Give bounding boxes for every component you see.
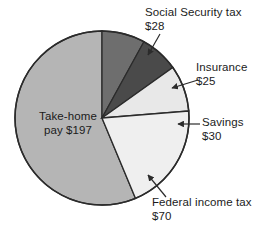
slice-label-insurance-name: Insurance — [196, 61, 247, 75]
slice-label-social-security-tax-value: $28 — [145, 20, 242, 34]
slice-label-federal-income-tax-name: Federal income tax — [152, 196, 252, 210]
pie-chart-figure: Take-home pay $197 Social Security tax $… — [0, 0, 276, 237]
slice-label-savings-value: $30 — [202, 130, 244, 144]
slice-label-federal-income-tax: Federal income tax $70 — [152, 196, 252, 223]
slice-label-insurance: Insurance $25 — [196, 61, 247, 88]
slice-label-take-home-pay-value: pay $197 — [22, 124, 114, 138]
slice-label-savings-name: Savings — [202, 116, 244, 130]
slice-label-take-home-pay: Take-home pay $197 — [22, 110, 114, 137]
slice-label-social-security-tax-name: Social Security tax — [145, 6, 242, 20]
slice-label-social-security-tax: Social Security tax $28 — [145, 6, 242, 33]
slice-label-federal-income-tax-value: $70 — [152, 210, 252, 224]
slice-label-savings: Savings $30 — [202, 116, 244, 143]
slice-label-insurance-value: $25 — [196, 75, 247, 89]
slice-label-take-home-pay-name: Take-home — [22, 110, 114, 124]
